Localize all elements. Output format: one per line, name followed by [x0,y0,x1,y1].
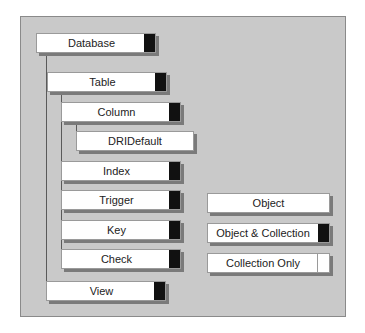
empty-tab-icon [317,254,329,272]
node-table: Table [47,72,167,92]
node-label: Index [62,162,171,180]
node-label: Trigger [62,191,171,209]
node-label: Key [62,221,171,239]
node-database: Database [36,33,156,53]
connector-column-trunk [76,122,77,131]
node-dridefault: DRIDefault [76,131,194,151]
collection-tab-icon [155,73,166,91]
collection-tab-icon [144,34,155,52]
node-label: Database [37,34,146,52]
node-trigger: Trigger [61,190,181,210]
collection-tab-icon [169,162,180,180]
legend-label: Collection Only [208,254,318,272]
node-index: Index [61,161,181,181]
node-label: Table [48,73,157,91]
collection-tab-icon [318,224,329,242]
legend-label: Object [208,194,329,212]
collection-tab-icon [169,103,180,121]
legend-object-collection: Object & Collection [207,223,330,243]
collection-tab-icon [169,221,180,239]
legend-label: Object & Collection [208,224,318,242]
legend-object: Object [207,193,330,213]
connector-table-trunk [61,92,62,102]
collection-tab-icon [169,250,180,268]
node-key: Key [61,220,181,240]
node-check: Check [61,249,181,269]
node-view: View [46,281,166,301]
node-label: Check [62,250,171,268]
collection-tab-icon [169,191,180,209]
node-label: Column [62,103,171,121]
collection-tab-icon [154,282,165,300]
node-column: Column [61,102,181,122]
node-label: DRIDefault [77,132,193,150]
node-label: View [47,282,156,300]
legend-collection-only: Collection Only [207,253,330,273]
